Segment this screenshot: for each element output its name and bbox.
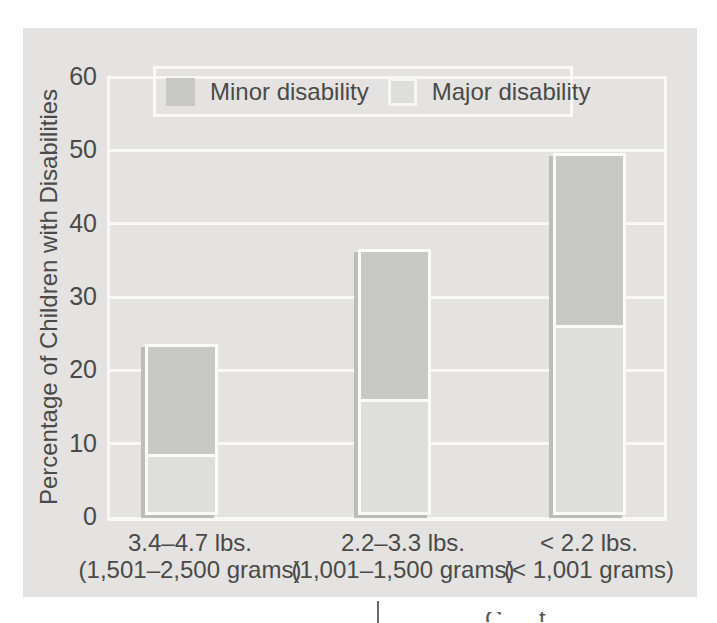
- gridline-50: [107, 149, 667, 152]
- x-label-2-grams: (1,001–1,500 grams): [292, 556, 515, 583]
- bar-3: [553, 153, 626, 515]
- y-tick-label-60: 60: [27, 64, 97, 89]
- cropped-text-fragment: C t I: [485, 612, 595, 622]
- x-label-1-grams: (1,501–2,500 grams): [79, 556, 302, 583]
- legend: Minor disability Major disability: [153, 66, 573, 117]
- x-label-2: 2.2–3.3 lbs.(1,001–1,500 grams): [292, 529, 515, 583]
- plot-area: [107, 77, 667, 517]
- bar-2-minor-segment: [361, 252, 428, 402]
- x-label-1-weight: 3.4–4.7 lbs.: [79, 529, 302, 556]
- x-axis-line: [107, 517, 667, 521]
- x-label-3: < 2.2 lbs.(< 1,001 grams): [504, 529, 674, 583]
- legend-item-minor: Minor disability: [166, 78, 369, 106]
- bar-1: [145, 344, 218, 515]
- cropped-figure-line: [377, 601, 379, 623]
- minor-disability-swatch: [166, 78, 195, 106]
- bar-2: [358, 249, 431, 515]
- x-label-3-grams: (< 1,001 grams): [504, 556, 674, 583]
- bar-3-minor-segment: [556, 156, 623, 328]
- legend-label-major: Major disability: [432, 78, 591, 106]
- major-disability-swatch: [388, 78, 417, 106]
- y-tick-label-0: 0: [27, 504, 97, 529]
- x-label-2-weight: 2.2–3.3 lbs.: [292, 529, 515, 556]
- x-label-1: 3.4–4.7 lbs.(1,501–2,500 grams): [79, 529, 302, 583]
- figure-panel: 0102030405060 Percentage of Children wit…: [23, 28, 697, 597]
- legend-label-minor: Minor disability: [210, 78, 369, 106]
- x-label-3-weight: < 2.2 lbs.: [504, 529, 674, 556]
- plot-right-border: [664, 77, 667, 520]
- y-axis-title: Percentage of Children with Disabilities: [35, 89, 63, 505]
- bar-1-minor-segment: [148, 347, 215, 457]
- y-axis-line: [107, 77, 110, 520]
- legend-item-major: Major disability: [388, 78, 591, 106]
